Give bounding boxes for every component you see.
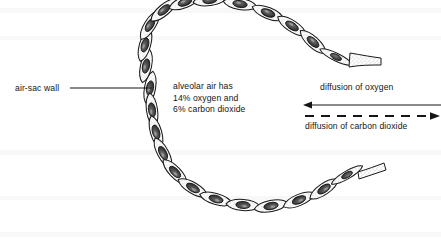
alveolus-diagram: air-sac wall alveolar air has 14% oxygen… <box>0 0 441 252</box>
lower-wall-tail <box>358 163 386 179</box>
air-sac-wall-label: air-sac wall <box>15 83 59 95</box>
diffusion-of-carbon-dioxide-label: diffusion of carbon dioxide <box>305 121 407 133</box>
alveolar-air-line-3: 6% carbon dioxide <box>173 104 245 116</box>
alveolar-air-line-1: alveolar air has <box>173 81 245 93</box>
carbon-dioxide-arrow <box>305 112 440 120</box>
alveolar-air-composition-label: alveolar air has 14% oxygen and 6% carbo… <box>173 81 245 116</box>
upper-wall-tail <box>349 53 381 67</box>
diffusion-of-oxygen-label: diffusion of oxygen <box>320 82 393 94</box>
alveolar-air-line-2: 14% oxygen and <box>173 93 245 105</box>
oxygen-arrow <box>303 102 441 109</box>
